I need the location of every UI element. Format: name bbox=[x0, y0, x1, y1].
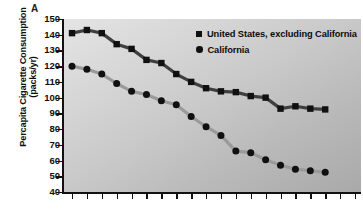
data-point-circle bbox=[203, 123, 210, 130]
data-point-circle bbox=[292, 166, 299, 173]
data-point-square bbox=[233, 89, 239, 95]
x-tick-mark bbox=[87, 193, 88, 199]
legend-item-california: California bbox=[196, 44, 357, 55]
x-tick-mark bbox=[281, 193, 282, 199]
data-point-circle bbox=[262, 156, 269, 163]
x-tick-mark bbox=[325, 193, 326, 199]
data-point-circle bbox=[98, 71, 105, 78]
data-point-circle bbox=[232, 148, 239, 155]
figure-panel-a: A Percapita Cigarette Consumption (packs… bbox=[0, 0, 363, 210]
y-tick-mark bbox=[56, 19, 62, 20]
data-point-square bbox=[84, 27, 90, 33]
data-point-circle bbox=[307, 167, 314, 174]
data-point-circle bbox=[173, 101, 180, 108]
legend-item-united-states: United States, excluding California bbox=[196, 28, 357, 39]
y-tick-mark bbox=[56, 129, 62, 130]
data-point-square bbox=[128, 46, 134, 52]
x-tick-mark bbox=[206, 193, 207, 199]
x-tick-mark bbox=[266, 193, 267, 199]
data-point-square bbox=[307, 105, 313, 111]
data-point-circle bbox=[128, 88, 135, 95]
y-tick-mark bbox=[56, 50, 62, 51]
data-point-square bbox=[99, 30, 105, 36]
data-point-circle bbox=[247, 149, 254, 156]
data-point-square bbox=[173, 71, 179, 77]
data-point-circle bbox=[69, 63, 76, 70]
x-tick-mark bbox=[161, 193, 162, 199]
x-tick-mark bbox=[236, 193, 237, 199]
y-tick-mark bbox=[56, 145, 62, 146]
legend-square-marker-icon bbox=[196, 31, 202, 37]
y-tick-label-group: 150140130120110100908070605040 bbox=[38, 14, 60, 198]
data-point-circle bbox=[217, 132, 224, 139]
x-tick-mark bbox=[102, 193, 103, 199]
x-tick-mark bbox=[132, 193, 133, 199]
data-point-square bbox=[218, 88, 224, 94]
legend-label-united-states: United States, excluding California bbox=[207, 29, 357, 39]
data-point-square bbox=[248, 93, 254, 99]
series-line bbox=[72, 66, 325, 172]
data-point-square bbox=[143, 57, 149, 63]
legend-label-california: California bbox=[208, 45, 250, 55]
y-tick-mark bbox=[56, 35, 62, 36]
x-tick-mark bbox=[146, 193, 147, 199]
y-tick-mark bbox=[56, 98, 62, 99]
y-axis-title-line2: (packs/yr) bbox=[28, 56, 39, 97]
data-point-square bbox=[188, 79, 194, 85]
y-tick-mark bbox=[56, 82, 62, 83]
x-tick-mark bbox=[117, 193, 118, 199]
y-tick-mark bbox=[56, 66, 62, 67]
data-point-square bbox=[322, 106, 328, 112]
x-tick-mark bbox=[310, 193, 311, 199]
x-tick-mark bbox=[295, 193, 296, 199]
data-point-square bbox=[69, 30, 75, 36]
data-point-circle bbox=[83, 66, 90, 73]
x-tick-mark bbox=[340, 193, 341, 199]
legend: United States, excluding California Cali… bbox=[196, 28, 357, 55]
panel-label: A bbox=[31, 4, 38, 14]
data-point-circle bbox=[188, 113, 195, 120]
data-point-square bbox=[292, 103, 298, 109]
y-axis-title-line1: Percapita Cigarette Consumption bbox=[18, 7, 29, 146]
data-point-circle bbox=[143, 91, 150, 98]
x-tick-mark bbox=[251, 193, 252, 199]
data-point-circle bbox=[113, 80, 120, 87]
data-point-circle bbox=[322, 169, 329, 176]
data-point-circle bbox=[158, 97, 165, 104]
x-tick-mark bbox=[176, 193, 177, 199]
legend-circle-marker-icon bbox=[196, 46, 203, 53]
data-point-square bbox=[158, 60, 164, 66]
x-tick-mark bbox=[191, 193, 192, 199]
y-tick-mark bbox=[56, 113, 62, 114]
x-tick-mark bbox=[221, 193, 222, 199]
x-tick-mark bbox=[72, 193, 73, 199]
x-axis-line bbox=[62, 192, 361, 194]
y-tick-mark bbox=[56, 161, 62, 162]
data-point-square bbox=[203, 85, 209, 91]
data-point-square bbox=[113, 41, 119, 47]
data-point-square bbox=[262, 94, 268, 100]
data-point-circle bbox=[277, 162, 284, 169]
y-tick-mark bbox=[56, 192, 62, 193]
data-point-square bbox=[277, 105, 283, 111]
x-tick-mark bbox=[355, 193, 356, 199]
y-tick-mark bbox=[56, 176, 62, 177]
